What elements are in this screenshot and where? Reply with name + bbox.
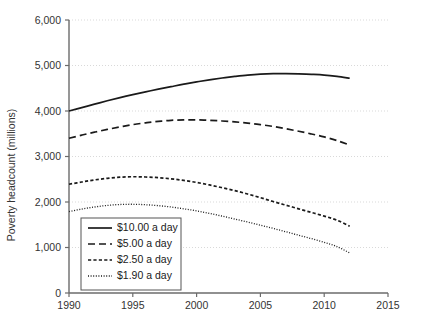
x-tick-label-2010: 2010 [313, 299, 337, 311]
legend-label-2-50-a-day: $2.50 a day [117, 253, 173, 265]
x-tick-label-2005: 2005 [249, 299, 273, 311]
poverty-headcount-line-chart: 01,0002,0003,0004,0005,0006,000 19901995… [0, 0, 439, 326]
legend-label-5-00-a-day: $5.00 a day [117, 237, 173, 249]
y-tick-label-4000: 4,000 [35, 105, 61, 117]
x-tick-label-1995: 1995 [121, 299, 145, 311]
x-tick-label-2015: 2015 [376, 299, 400, 311]
x-tick-label-2000: 2000 [185, 299, 209, 311]
chart-background [0, 0, 439, 326]
y-tick-label-2000: 2,000 [35, 196, 61, 208]
y-tick-label-1000: 1,000 [35, 241, 61, 253]
chart-canvas: 01,0002,0003,0004,0005,0006,000 19901995… [0, 0, 439, 326]
legend-label-10-00-a-day: $10.00 a day [117, 221, 178, 233]
y-axis-title: Poverty headcount (millions) [5, 109, 17, 241]
y-tick-label-5000: 5,000 [35, 59, 61, 71]
legend-label-1-90-a-day: $1.90 a day [117, 269, 173, 281]
chart-legend: $10.00 a day$5.00 a day$2.50 a day$1.90 … [81, 218, 181, 290]
x-tick-label-1990: 1990 [57, 299, 81, 311]
y-tick-label-3000: 3,000 [35, 150, 61, 162]
y-tick-label-0: 0 [55, 287, 61, 299]
y-tick-label-6000: 6,000 [35, 14, 61, 26]
